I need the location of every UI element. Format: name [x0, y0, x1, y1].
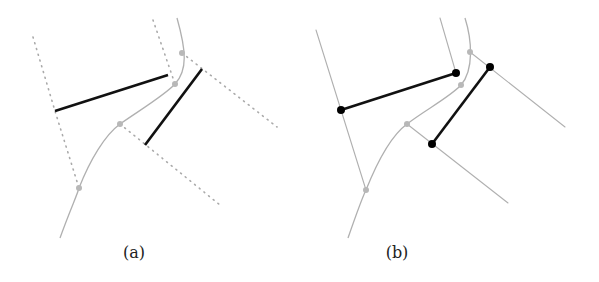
curve-point: [467, 49, 473, 55]
curve-point: [404, 121, 410, 127]
curve-point: [76, 185, 82, 191]
curve-point: [117, 121, 123, 127]
caption-a: (a): [123, 243, 145, 262]
normal-line: [407, 124, 508, 203]
curve: [348, 18, 471, 238]
dotted-normal-line: [182, 53, 277, 127]
dotted-normal-line: [33, 37, 79, 188]
curve-point: [179, 50, 185, 56]
segment-endpoint: [428, 140, 436, 148]
dotted-normal-line: [120, 124, 220, 205]
segment-endpoint: [452, 69, 460, 77]
diagram-canvas: [0, 0, 599, 282]
dotted-normal-line: [153, 20, 175, 84]
curve: [60, 18, 184, 238]
normal-line: [440, 18, 456, 73]
curve-point: [172, 81, 178, 87]
segment: [55, 75, 168, 111]
curve-point: [458, 82, 464, 88]
curve-point: [363, 187, 369, 193]
normal-line: [470, 52, 565, 127]
caption-b: (b): [386, 243, 409, 262]
segment-endpoint: [337, 106, 345, 114]
segment: [341, 73, 456, 110]
segment-endpoint: [486, 63, 494, 71]
